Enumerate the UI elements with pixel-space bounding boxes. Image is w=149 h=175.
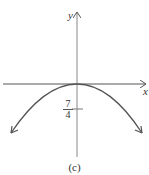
tick-denominator: 4 <box>63 110 73 120</box>
y-axis-label: y <box>68 9 73 21</box>
tick-label-fraction: 7 4 <box>63 99 73 120</box>
x-axis-label: x <box>143 85 148 97</box>
parabola-plot <box>0 0 149 175</box>
figure-caption: (c) <box>0 161 149 173</box>
